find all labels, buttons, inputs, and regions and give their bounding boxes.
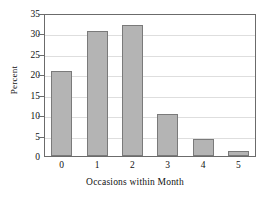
bar-chart: Percent 05101520253035 012345 Occasions … <box>0 0 270 201</box>
y-axis-tick-labels: 05101520253035 <box>18 14 40 157</box>
x-tick-label: 2 <box>130 160 135 170</box>
x-tick-label: 4 <box>201 160 206 170</box>
bars-layer <box>44 14 256 157</box>
bar <box>228 151 249 156</box>
x-tick-label: 5 <box>236 160 241 170</box>
x-axis-title: Occasions within Month <box>0 177 270 187</box>
y-tick-label: 0 <box>35 152 40 162</box>
x-tick-label: 1 <box>95 160 100 170</box>
x-axis-tick-labels: 012345 <box>44 160 256 174</box>
x-tick-label: 3 <box>165 160 170 170</box>
bar <box>51 71 72 156</box>
bar <box>87 31 108 156</box>
bar <box>157 114 178 156</box>
x-tick-label: 0 <box>59 160 64 170</box>
bar <box>193 139 214 156</box>
bar <box>122 25 143 156</box>
